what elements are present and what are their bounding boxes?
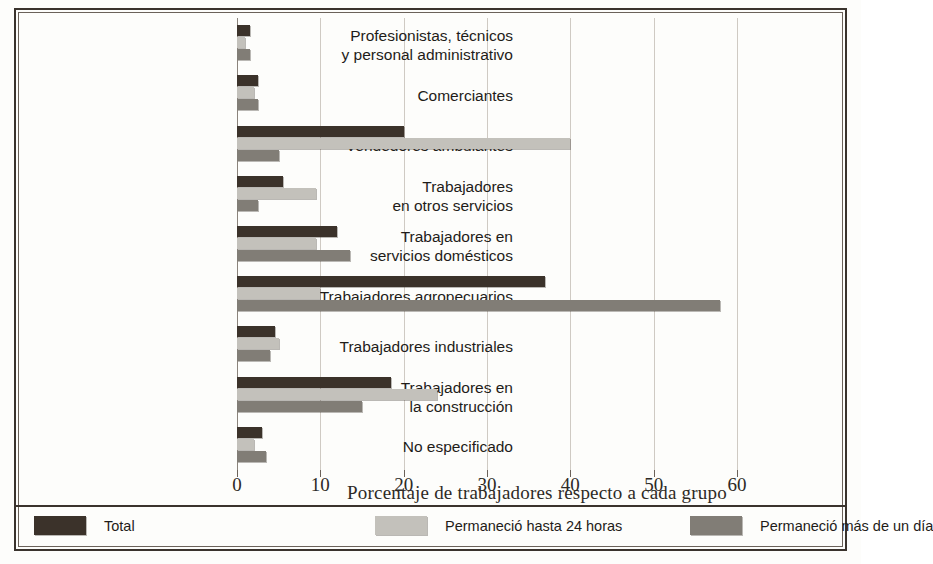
x-axis-title: Porcentaje de trabajadores respecto a ca… — [237, 482, 837, 504]
legend-item[interactable]: Total — [34, 516, 135, 535]
category-row: No especificado — [237, 420, 762, 470]
category-row: Trabajadores industriales — [237, 319, 762, 369]
bar-dia — [237, 250, 350, 261]
legend-label: Total — [104, 518, 135, 534]
category-label: No especificado — [293, 437, 513, 456]
bar-h24 — [237, 188, 316, 199]
bar-total — [237, 276, 545, 287]
bar-dia — [237, 401, 362, 412]
bar-h24 — [237, 288, 320, 299]
chart-legend: TotalPermaneció hasta 24 horasPermaneció… — [0, 516, 861, 554]
bar-dia — [237, 49, 250, 60]
legend-swatch — [690, 516, 742, 535]
bar-dia — [237, 451, 266, 462]
legend-label: Permaneció hasta 24 horas — [445, 518, 622, 534]
bar-h24 — [237, 338, 279, 349]
legend-label: Permaneció más de un día — [760, 518, 933, 534]
bar-dia — [237, 200, 258, 211]
plot-area: Profesionistas, técnicos y personal admi… — [237, 18, 762, 470]
category-row: Vendedores ambulantes — [237, 118, 762, 168]
category-label: Trabajadores industriales — [293, 337, 513, 356]
bar-h24 — [237, 138, 570, 149]
bar-dia — [237, 99, 258, 110]
category-row: Trabajadores en otros servicios — [237, 169, 762, 219]
category-label: Comerciantes — [293, 86, 513, 105]
category-row: Trabajadores en servicios domésticos — [237, 219, 762, 269]
legend-item[interactable]: Permaneció hasta 24 horas — [375, 516, 622, 535]
bar-h24 — [237, 238, 316, 249]
bar-h24 — [237, 87, 254, 98]
bar-total — [237, 226, 337, 237]
bar-h24 — [237, 439, 254, 450]
bar-total — [237, 377, 391, 388]
category-label: Trabajadores en otros servicios — [293, 177, 513, 215]
bar-total — [237, 176, 283, 187]
category-row: Trabajadores en la construcción — [237, 370, 762, 420]
category-row: Comerciantes — [237, 68, 762, 118]
category-label: Profesionistas, técnicos y personal admi… — [293, 26, 513, 64]
legend-swatch — [34, 516, 86, 535]
bar-dia — [237, 350, 270, 361]
legend-divider — [16, 505, 845, 507]
bar-total — [237, 75, 258, 86]
legend-swatch — [375, 516, 427, 535]
bar-h24 — [237, 389, 437, 400]
bar-total — [237, 427, 262, 438]
category-row: Profesionistas, técnicos y personal admi… — [237, 18, 762, 68]
bar-total — [237, 25, 250, 36]
bar-total — [237, 326, 275, 337]
bar-dia — [237, 300, 720, 311]
category-row: Trabajadores agropecuarios — [237, 269, 762, 319]
legend-item[interactable]: Permaneció más de un día — [690, 516, 933, 535]
bar-h24 — [237, 37, 245, 48]
bar-dia — [237, 150, 279, 161]
bar-total — [237, 126, 404, 137]
